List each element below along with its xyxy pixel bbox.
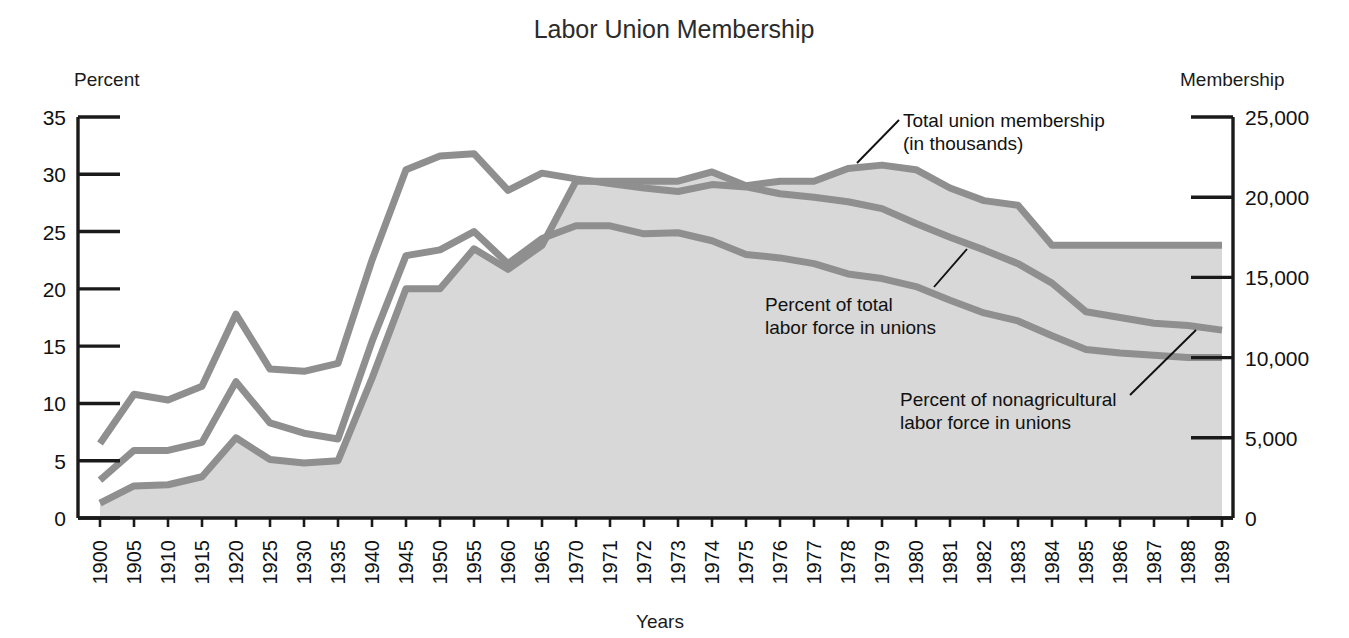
chart-canvas: Labor Union Membership Percent Membershi… [0,0,1349,638]
x-axis-tick-label: 1973 [667,540,689,585]
left-axis-tick-label: 20 [43,278,66,301]
x-axis-tick-label: 1985 [1075,540,1097,585]
right-axis-tick-label: 10,000 [1245,347,1309,370]
x-axis-tick-label: 1989 [1211,540,1233,585]
x-axis-tick-label: 1910 [157,540,179,585]
area-series-layer [100,165,1222,518]
x-axis-tick-label: 1979 [871,540,893,585]
x-axis-tick-label: 1905 [123,540,145,585]
x-axis-tick-label: 1955 [463,540,485,585]
x-axis-label: Years [636,611,684,632]
x-axis-tick-label: 1930 [293,540,315,585]
x-axis-tick-label: 1972 [633,540,655,585]
right-axis-tick-label: 25,000 [1245,106,1309,129]
labor-union-membership-chart: Labor Union Membership Percent Membershi… [0,0,1349,638]
annotation-total-union-membership: Total union membership (in thousands) [857,110,1105,163]
left-axis-tick-label: 15 [43,335,66,358]
left-axis-tick-label: 35 [43,106,66,129]
x-axis-tick-label: 1987 [1143,540,1165,585]
left-axis-tick-label: 25 [43,221,66,244]
x-axis-tick-label: 1974 [701,540,723,585]
x-axis-tick-label: 1978 [837,540,859,585]
annotation-pct-total-line1: Percent of total [765,294,893,315]
x-axis-tick-label: 1965 [531,540,553,585]
total-union-membership-area [100,165,1222,518]
x-axis-tick-label: 1984 [1041,540,1063,585]
right-axis-tick-label: 20,000 [1245,186,1309,209]
right-axis-label: Membership [1180,69,1285,90]
left-axis-label: Percent [74,69,140,90]
right-axis-tick-label: 15,000 [1245,266,1309,289]
x-axis-tick-label: 1982 [973,540,995,585]
left-axis-tick-label: 5 [54,450,66,473]
x-axis-tick-label: 1983 [1007,540,1029,585]
x-axis-tick-label: 1945 [395,540,417,585]
x-axis-tick-label: 1950 [429,540,451,585]
x-axis-tick-label: 1900 [89,540,111,585]
annotation-pct-total-line2: labor force in unions [765,317,936,338]
left-axis-tick-label: 30 [43,163,66,186]
x-axis-tick-label: 1981 [939,540,961,585]
right-axis-tick-label: 0 [1245,507,1257,530]
x-axis-tick-label: 1986 [1109,540,1131,585]
x-axis-tick-label: 1940 [361,540,383,585]
x-axis-tick-label: 1970 [565,540,587,585]
x-axis-tick-label: 1975 [735,540,757,585]
x-axis-tick-label: 1915 [191,540,213,585]
x-axis-tick-label: 1988 [1177,540,1199,585]
annotation-pct-nonag-line1: Percent of nonagricultural [900,389,1117,410]
x-axis-tick-label: 1977 [803,540,825,585]
x-axis-tick-label: 1925 [259,540,281,585]
left-axis-tick-label: 0 [54,507,66,530]
x-axis-tick-label: 1920 [225,540,247,585]
annotation-pct-nonag-line2: labor force in unions [900,412,1071,433]
chart-title: Labor Union Membership [534,15,815,43]
leader-line-total [857,120,899,163]
x-axis-tick-label: 1935 [327,540,349,585]
x-tick-labels: 1900190519101915192019251930193519401945… [89,540,1233,585]
x-axis-tick-label: 1980 [905,540,927,585]
x-axis-tick-label: 1971 [599,540,621,585]
left-axis-tick-label: 10 [43,392,66,415]
annotation-total-line1: Total union membership [903,110,1105,131]
annotation-total-line2: (in thousands) [903,133,1023,154]
x-axis-tick-label: 1960 [497,540,519,585]
x-axis-tick-label: 1976 [769,540,791,585]
right-axis-tick-label: 5,000 [1245,427,1298,450]
